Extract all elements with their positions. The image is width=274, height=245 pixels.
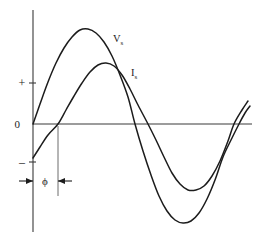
waveform-plot: 0 + – ϕ Vs Is <box>0 0 274 245</box>
voltage-curve-label: Vs <box>113 33 124 47</box>
phase-arrow-left-icon <box>26 178 33 184</box>
voltage-waveform-curve <box>33 29 250 223</box>
current-waveform-curve <box>33 63 248 191</box>
voltage-subscript: s <box>121 39 124 47</box>
phase-arrow-right-icon <box>58 178 65 184</box>
current-subscript: s <box>135 73 138 81</box>
current-curve-label: Is <box>131 67 138 81</box>
waveform-figure: 0 + – ϕ Vs Is <box>0 0 274 245</box>
positive-label: + <box>19 76 26 90</box>
negative-label: – <box>18 155 26 169</box>
phase-angle-label: ϕ <box>42 175 48 187</box>
origin-label: 0 <box>15 118 21 130</box>
